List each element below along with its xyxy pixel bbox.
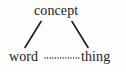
node-label-concept: concept <box>34 4 78 18</box>
semiotic-triangle-diagram: concept word thing <box>0 0 126 72</box>
node-label-thing: thing <box>81 50 110 64</box>
edge-concept-thing <box>72 22 88 48</box>
node-label-word: word <box>9 50 38 64</box>
edge-concept-word <box>25 22 41 48</box>
